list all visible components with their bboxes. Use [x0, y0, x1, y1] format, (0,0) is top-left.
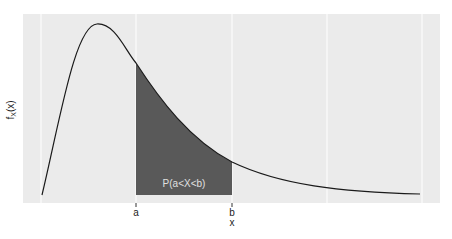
tick-a-label: a [133, 207, 139, 218]
probability-annotation: P(a<X<b) [163, 178, 206, 189]
y-axis-label: fX(x) [5, 100, 17, 119]
svg-text:fX(x): fX(x) [5, 100, 17, 119]
x-axis-label: x [230, 217, 235, 228]
chart-svg: P(a<X<b) a b x fX(x) [0, 0, 452, 239]
